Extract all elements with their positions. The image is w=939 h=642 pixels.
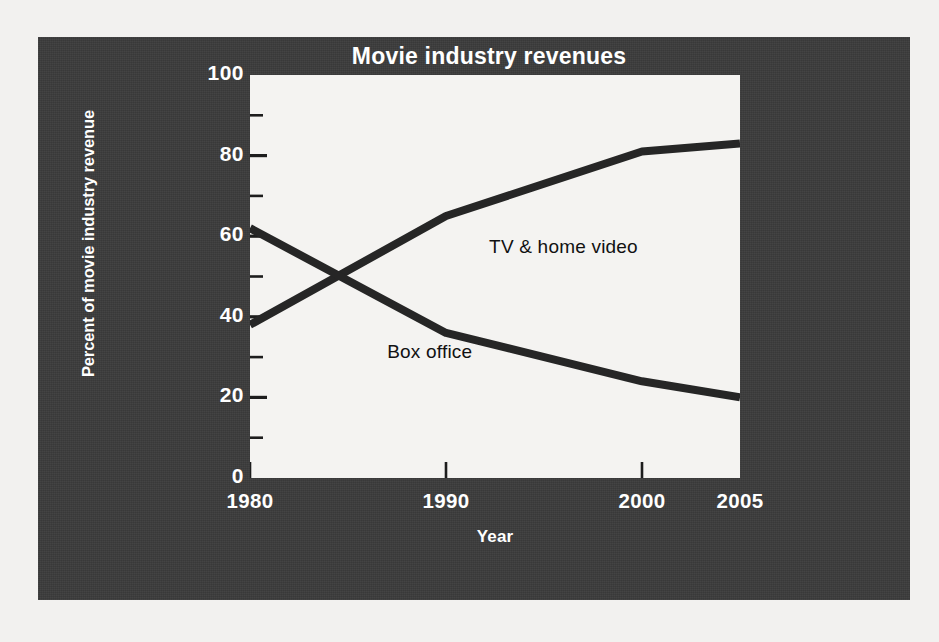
series-lines	[250, 144, 740, 398]
x-tick-label: 2000	[619, 489, 666, 513]
y-axis-title: Percent of movie industry revenue	[79, 79, 98, 409]
figure-root: Movie industry revenues Percent of movie…	[0, 0, 939, 642]
x-axis-title: Year	[250, 527, 740, 547]
plot-svg	[250, 75, 740, 478]
y-tick-label: 100	[184, 61, 244, 85]
y-tick-label: 40	[184, 303, 244, 327]
x-tick-label: 1980	[227, 489, 274, 513]
series-label: Box office	[387, 341, 472, 363]
chart-panel: Movie industry revenues Percent of movie…	[38, 37, 910, 600]
chart-title: Movie industry revenues	[38, 41, 910, 71]
x-tick-label: 2005	[717, 489, 764, 513]
y-tick-label: 60	[184, 222, 244, 246]
series-label: TV & home video	[489, 236, 638, 258]
y-axis-tick-labels: 020406080100	[178, 75, 244, 478]
y-tick-label: 20	[184, 383, 244, 407]
y-tick-label: 80	[184, 142, 244, 166]
plot-area: TV & home videoBox office	[250, 75, 740, 478]
x-tick-label: 1990	[423, 489, 470, 513]
y-tick-label: 0	[184, 464, 244, 488]
x-axis-tick-labels: 1980199020002005	[250, 489, 740, 519]
series-line	[250, 144, 740, 325]
